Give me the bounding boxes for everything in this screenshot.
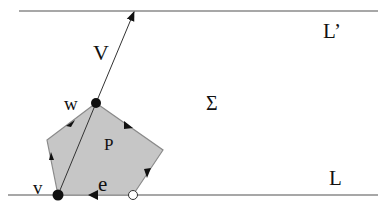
vertex-v-label: v: [33, 177, 43, 198]
line-l-label: L: [329, 166, 342, 190]
edge-label: e: [98, 172, 107, 196]
diagram-canvas: V w P v e Σ L’ L: [0, 0, 389, 208]
vertex-w-point: [91, 98, 101, 108]
vector-label: V: [93, 40, 109, 65]
vertex-v-point: [53, 190, 64, 201]
polygon-label: P: [104, 135, 113, 154]
region-label: Σ: [206, 92, 218, 114]
open-point: [129, 191, 138, 200]
edge-arrow-icon: [124, 121, 133, 129]
line-l-prime-label: L’: [323, 19, 341, 43]
vertex-w-label: w: [64, 93, 78, 114]
